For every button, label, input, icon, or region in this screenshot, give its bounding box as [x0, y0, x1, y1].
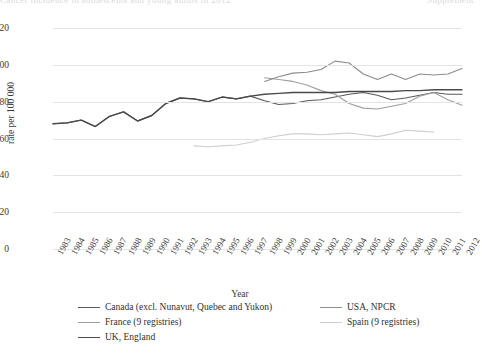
legend-swatch-canada	[78, 307, 100, 308]
gridline-120	[53, 28, 462, 29]
legend-swatch-spain	[320, 322, 342, 323]
clipped-header-left: Cancer incidence in adolescents and youn…	[0, 0, 480, 5]
y-tick-label-80: 80	[0, 97, 9, 107]
clipped-header-right: Supplement	[427, 0, 474, 5]
legend-swatch-uk	[78, 337, 100, 338]
gridline-60	[53, 139, 462, 140]
legend-label-spain: Spain (9 registries)	[347, 317, 419, 328]
gridline-40	[53, 175, 462, 176]
legend-item-uk[interactable]: UK, England	[78, 332, 155, 343]
y-axis-title: rate per 100 000	[6, 53, 16, 173]
legend-item-usa[interactable]: USA, NPCR	[320, 302, 396, 313]
series-line-canada	[53, 92, 462, 126]
legend-label-france: France (9 registries)	[105, 317, 182, 328]
legend-item-spain[interactable]: Spain (9 registries)	[320, 317, 419, 328]
series-line-france	[265, 78, 462, 109]
clipped-header-strip: Cancer incidence in adolescents and youn…	[0, 0, 480, 9]
legend-item-canada[interactable]: Canada (excl. Nunavut, Quebec and Yukon)	[78, 302, 272, 313]
legend-label-uk: UK, England	[105, 332, 155, 343]
x-axis-title: Year	[0, 289, 480, 299]
legend-swatch-france	[78, 322, 100, 323]
legend-swatch-usa	[320, 307, 342, 308]
gridline-20	[53, 212, 462, 213]
y-tick-label-120: 120	[0, 23, 9, 33]
y-tick-label-20: 20	[0, 207, 9, 217]
legend-item-france[interactable]: France (9 registries)	[78, 317, 182, 328]
y-tick-label-100: 100	[0, 60, 9, 70]
chart-legend: Canada (excl. Nunavut, Quebec and Yukon)…	[0, 300, 480, 358]
x-tick-label-2012: 2012	[465, 236, 482, 256]
plot-area	[53, 28, 462, 249]
legend-label-usa: USA, NPCR	[347, 302, 396, 313]
series-line-uk	[53, 90, 462, 127]
y-tick-label-60: 60	[0, 134, 9, 144]
legend-label-canada: Canada (excl. Nunavut, Quebec and Yukon)	[105, 302, 272, 313]
gridline-100	[53, 65, 462, 66]
gridline-80	[53, 102, 462, 103]
y-tick-label-40: 40	[0, 170, 9, 180]
